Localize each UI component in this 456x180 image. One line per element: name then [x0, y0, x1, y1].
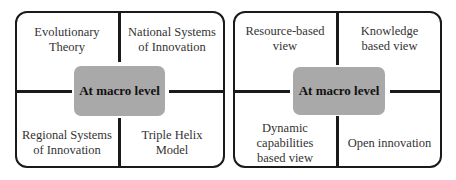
quadrant-bottom-right: Triple Helix Model — [121, 121, 223, 165]
horizontal-divider-right — [390, 90, 440, 93]
quadrant-label: Dynamic capabilities based view — [253, 121, 317, 166]
quadrant-top-right: Knowledge based view — [339, 17, 440, 61]
quadrant-label: Open innovation — [340, 136, 440, 151]
quadrant-label: Knowledge based view — [355, 24, 425, 54]
quadrant-bottom-left: Regional Systems of Innovation — [17, 121, 117, 165]
macro-level-panel: Evolutionary Theory National Systems of … — [15, 11, 225, 168]
horizontal-divider-left — [235, 90, 290, 93]
center-label-box: At macro level — [74, 66, 165, 116]
quadrant-bottom-left: Dynamic capabilities based view — [235, 119, 335, 167]
center-label: At macro level — [79, 83, 160, 99]
quadrant-top-left: Evolutionary Theory — [17, 17, 117, 63]
center-label: At macro level — [299, 83, 380, 99]
quadrant-label: Regional Systems of Innovation — [19, 128, 115, 158]
firm-level-panel: Resource-based view Knowledge based view… — [233, 11, 442, 168]
quadrant-top-left: Resource-based view — [235, 17, 335, 61]
quadrant-label: Resource-based view — [237, 24, 333, 54]
quadrant-bottom-right: Open innovation — [339, 119, 440, 167]
center-label-box: At macro level — [293, 67, 385, 115]
quadrant-label: Triple Helix Model — [137, 128, 207, 158]
quadrant-top-right: National Systems of Innovation — [121, 17, 223, 63]
quadrant-label: Evolutionary Theory — [27, 25, 107, 55]
horizontal-divider-left — [17, 90, 72, 93]
horizontal-divider-right — [169, 90, 223, 93]
quadrant-label: National Systems of Innovation — [124, 25, 220, 55]
